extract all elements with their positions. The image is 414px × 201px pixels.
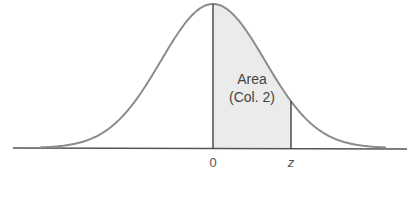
tick-label-z: z <box>287 155 295 170</box>
area-sublabel: (Col. 2) <box>229 89 275 105</box>
x-axis <box>13 148 407 149</box>
area-label: Area <box>237 71 267 87</box>
tick-label-zero: 0 <box>209 155 216 170</box>
normal-curve-chart: Area (Col. 2) 0 z <box>0 0 414 201</box>
